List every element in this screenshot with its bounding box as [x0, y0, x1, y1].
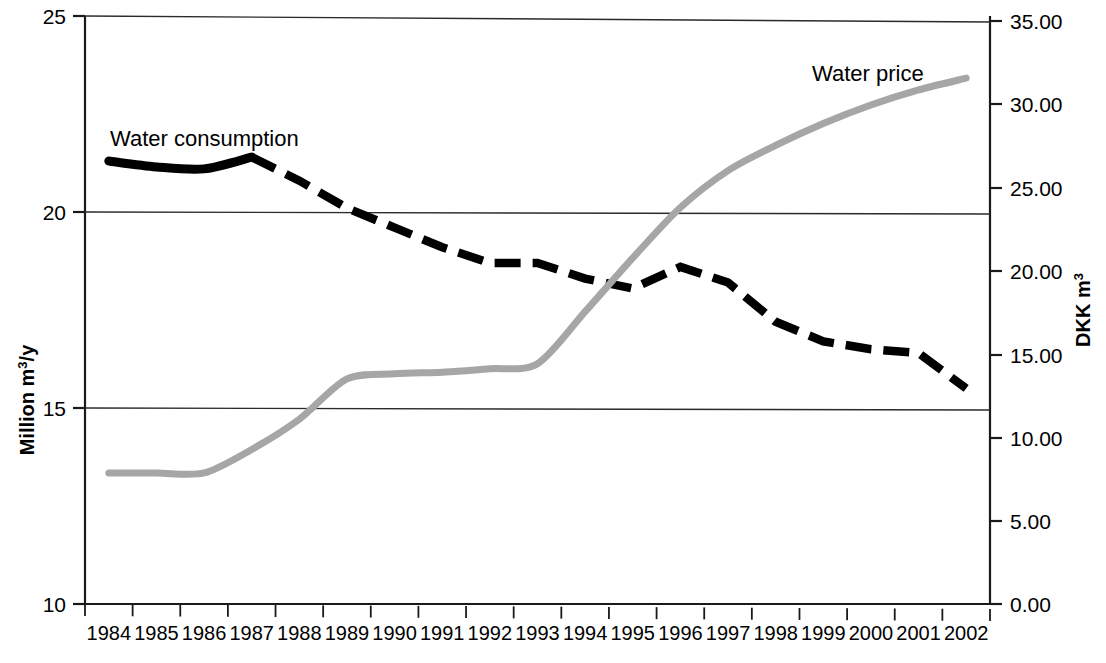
- x-axis-tick-label: 2000: [849, 622, 894, 644]
- series-path-water-consumption-dashed: [252, 157, 966, 388]
- x-axis-tick-label: 1987: [229, 622, 274, 644]
- left-tick-label: 15: [43, 397, 66, 420]
- x-axis-tick-label: 1986: [182, 622, 227, 644]
- x-axis-tick-label: 1991: [420, 622, 465, 644]
- x-axis-tick-label: 1989: [325, 622, 370, 644]
- chart-container: 25 20 15 10 35.00 30.00 25.00 20.00 15.0…: [0, 0, 1106, 663]
- x-axis-tick-label: 1994: [563, 622, 608, 644]
- x-axis-tick-label: 1984: [87, 622, 132, 644]
- x-axis-tick-label: 1999: [801, 622, 846, 644]
- right-axis-title: DKK m3: [1071, 273, 1094, 347]
- left-tick-label: 20: [43, 201, 66, 224]
- right-tick-label: 5.00: [1010, 510, 1051, 533]
- x-axis-tick-label: 1998: [753, 622, 798, 644]
- left-axis-title: Million m3/y: [15, 344, 38, 455]
- series-label-water-price: Water price: [812, 61, 924, 86]
- left-axis-tick-labels: 25 20 15 10: [43, 5, 66, 616]
- x-axis-tick-label: 2002: [944, 622, 989, 644]
- right-tick-label: 10.00: [1010, 427, 1063, 450]
- left-axis-ticks: [73, 16, 85, 604]
- right-tick-label: 15.00: [1010, 344, 1063, 367]
- x-axis-tick-label: 1985: [134, 622, 179, 644]
- line-chart: 25 20 15 10 35.00 30.00 25.00 20.00 15.0…: [0, 0, 1106, 663]
- right-tick-label: 20.00: [1010, 260, 1063, 283]
- right-tick-label: 0.00: [1010, 593, 1051, 616]
- left-tick-label: 25: [43, 5, 66, 28]
- right-axis-tick-labels: 35.00 30.00 25.00 20.00 15.00 10.00 5.00…: [1010, 10, 1063, 616]
- svg-text:DKK m3: DKK m3: [1071, 273, 1094, 347]
- x-axis-tick-label: 1992: [468, 622, 513, 644]
- series-label-water-consumption: Water consumption: [110, 126, 299, 151]
- right-tick-label: 35.00: [1010, 10, 1063, 33]
- x-axis-tick-label: 1996: [658, 622, 703, 644]
- x-axis-tick-label: 1993: [515, 622, 560, 644]
- axis-lines: [85, 16, 990, 604]
- right-tick-label: 30.00: [1010, 93, 1063, 116]
- left-tick-label: 10: [43, 593, 66, 616]
- x-axis-tick-labels: 1984198519861987198819891990199119921993…: [87, 622, 989, 644]
- right-tick-label: 25.00: [1010, 177, 1063, 200]
- x-axis-ticks: [85, 604, 990, 621]
- x-axis-tick-label: 2001: [896, 622, 941, 644]
- x-axis-tick-label: 1988: [277, 622, 322, 644]
- x-axis-tick-label: 1995: [611, 622, 656, 644]
- svg-text:Million m3/y: Million m3/y: [15, 344, 38, 455]
- right-axis-ticks: [990, 21, 1002, 604]
- x-axis-tick-label: 1997: [706, 622, 751, 644]
- x-axis-tick-label: 1990: [372, 622, 417, 644]
- series-path-water-consumption-solid: [109, 157, 252, 169]
